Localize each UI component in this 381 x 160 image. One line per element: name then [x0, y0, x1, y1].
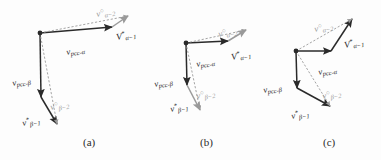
panel-c-origin-node	[294, 49, 299, 54]
panel_a-pcc-beta-arrow	[40, 33, 41, 97]
panel-c-label-alpha-minus-1: V*α−1	[343, 32, 365, 51]
label-subscript: α−1	[353, 41, 365, 50]
label-subscript: pcc-β	[267, 86, 282, 95]
panel-b-label-pcc-alpha: vpcc-α	[195, 51, 216, 70]
panel-a-label-beta-minus-1: v*β−1	[21, 110, 41, 129]
label-subscript: α−2	[104, 10, 116, 19]
panel_b-pcc-beta-arrow	[186, 43, 187, 85]
label-subscript: β−2	[58, 103, 70, 112]
panel-a-label-pcc-beta: vpcc-β	[11, 70, 32, 89]
panel-a-label-pcc-alpha: vpcc-α	[65, 39, 86, 58]
panel_a-pcc-alpha-arrow	[40, 27, 112, 33]
label-subscript: α−1	[240, 53, 252, 62]
panel-a-label-beta-minus-2: v○β−2	[49, 94, 70, 113]
vector-diagram-figure: vpcc-αvpcc-βv○α−2V*α−1v○β−2v*β−1vpcc-αvp…	[0, 0, 381, 160]
label-subscript: β−2	[204, 92, 216, 101]
panel-caption-b: (b)	[200, 136, 213, 148]
panel_c-pcc-beta-arrow	[296, 51, 297, 88]
panel-caption-c: (c)	[323, 136, 335, 148]
panel-c-label-beta-minus-1: v*β−1	[290, 103, 310, 122]
panel-a-origin-node	[38, 31, 43, 36]
panel-c-label-beta-minus-2: v○β−2	[321, 83, 342, 102]
panel-a-label-alpha-minus-2: v○α−2	[95, 1, 116, 20]
panel-b-label-beta-minus-1: v*β−1	[169, 96, 189, 115]
panel-caption-a: (a)	[83, 136, 95, 148]
label-subscript: α−2	[226, 30, 238, 39]
panel-c-label-alpha-minus-2: v○α−2	[313, 16, 334, 35]
panel-b-label-beta-minus-2: v○β−2	[195, 83, 216, 102]
label-subscript: α−2	[322, 25, 334, 34]
panel_b-pcc-alpha-arrow	[186, 41, 228, 43]
panel-b-label-alpha-minus-2: v○α−2	[217, 21, 238, 40]
panel-b-label-pcc-beta: vpcc-β	[153, 71, 174, 90]
label-subscript: β−1	[177, 105, 189, 114]
panel-a-label-alpha-minus-1: V*α−1	[115, 24, 137, 43]
label-subscript: β−1	[29, 119, 41, 128]
panel-c-label-pcc-beta: vpcc-β	[262, 77, 283, 96]
panel-b-label-alpha-minus-1: V*α−1	[230, 44, 252, 63]
label-subscript: β−2	[330, 92, 342, 101]
panel-c-label-pcc-alpha: vpcc-α	[317, 59, 338, 78]
label-subscript: pcc-β	[158, 80, 173, 89]
label-subscript: β−1	[298, 112, 310, 121]
label-subscript: pcc-β	[16, 79, 31, 88]
panel-b-origin-node	[184, 41, 189, 46]
label-subscript: α−1	[125, 33, 137, 42]
